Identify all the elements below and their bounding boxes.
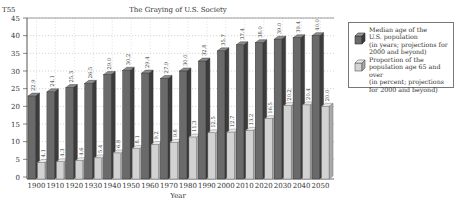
svg-text:2050: 2050	[312, 182, 330, 190]
svg-text:13.2: 13.2	[248, 114, 254, 126]
svg-text:37.4: 37.4	[239, 28, 245, 40]
svg-text:29.0: 29.0	[106, 58, 112, 70]
legend-line: Proportion of the	[369, 56, 453, 63]
svg-text:1980: 1980	[179, 182, 197, 190]
svg-text:20.4: 20.4	[305, 88, 311, 100]
svg-text:22.9: 22.9	[30, 80, 36, 92]
svg-text:20.2: 20.2	[286, 89, 292, 101]
legend-label-proportion-65: Proportion of the population age 65 and …	[369, 56, 453, 93]
svg-text:8.1: 8.1	[134, 135, 140, 143]
legend-line: U.S. population	[369, 33, 453, 40]
svg-text:30: 30	[11, 68, 20, 76]
svg-text:9.2: 9.2	[153, 131, 159, 139]
svg-text:1900: 1900	[28, 182, 46, 190]
svg-text:12.7: 12.7	[229, 116, 235, 128]
svg-text:1930: 1930	[84, 182, 102, 190]
legend-line: for 2000 and beyond)	[369, 86, 453, 93]
svg-text:32.8: 32.8	[201, 45, 207, 57]
svg-text:1990: 1990	[198, 182, 216, 190]
legend-line: (in years; projections for	[369, 41, 453, 48]
svg-text:2000: 2000	[217, 182, 235, 190]
svg-text:4.6: 4.6	[78, 147, 84, 155]
svg-text:20.0: 20.0	[324, 90, 330, 102]
svg-text:1940: 1940	[103, 182, 121, 190]
svg-text:T55: T55	[2, 6, 16, 14]
svg-text:4.1: 4.1	[40, 149, 46, 157]
svg-text:16.5: 16.5	[267, 102, 273, 114]
svg-text:20: 20	[11, 103, 20, 111]
svg-text:12.5: 12.5	[210, 116, 216, 128]
svg-text:2040: 2040	[293, 182, 311, 190]
svg-text:1910: 1910	[46, 182, 64, 190]
svg-text:25: 25	[11, 85, 20, 93]
legend-line: (in percent; projections	[369, 78, 453, 85]
svg-text:11.3: 11.3	[191, 121, 197, 133]
svg-text:10: 10	[11, 138, 20, 146]
dark-cube-icon	[354, 32, 367, 45]
legend: Median age of the U.S. population (in ye…	[348, 22, 454, 88]
legend-label-median-age: Median age of the U.S. population (in ye…	[369, 26, 453, 56]
svg-text:35.7: 35.7	[220, 34, 226, 46]
legend-line: population age 65 and over	[369, 63, 453, 78]
svg-text:The Graying of U.S. Society: The Graying of U.S. Society	[129, 6, 227, 14]
svg-text:1960: 1960	[141, 182, 159, 190]
svg-text:Year: Year	[169, 192, 186, 200]
svg-text:9.8: 9.8	[172, 129, 178, 137]
svg-text:30.2: 30.2	[125, 54, 131, 66]
svg-text:2030: 2030	[274, 182, 292, 190]
svg-text:5: 5	[16, 156, 20, 164]
svg-text:1920: 1920	[65, 182, 83, 190]
svg-text:30.0: 30.0	[182, 54, 188, 66]
svg-text:39.0: 39.0	[276, 23, 282, 35]
svg-text:40.0: 40.0	[314, 19, 320, 31]
svg-text:15: 15	[11, 121, 20, 129]
svg-text:5.4: 5.4	[97, 144, 103, 153]
svg-text:40: 40	[11, 32, 20, 40]
svg-text:2020: 2020	[255, 182, 273, 190]
light-cube-icon	[354, 59, 367, 72]
svg-text:1970: 1970	[160, 182, 178, 190]
svg-text:2010: 2010	[236, 182, 254, 190]
svg-text:0: 0	[16, 174, 20, 182]
bars	[28, 33, 333, 179]
svg-text:4.3: 4.3	[59, 149, 65, 157]
svg-text:25.3: 25.3	[68, 71, 74, 83]
svg-text:29.4: 29.4	[144, 56, 150, 68]
svg-text:27.9: 27.9	[163, 62, 169, 74]
svg-text:24.1: 24.1	[49, 75, 55, 87]
svg-text:1950: 1950	[122, 182, 140, 190]
svg-text:6.8: 6.8	[115, 140, 121, 148]
legend-line: 2000 and beyond)	[369, 48, 453, 55]
svg-text:39.4: 39.4	[295, 21, 301, 33]
svg-text:45: 45	[11, 15, 20, 23]
svg-text:35: 35	[11, 50, 20, 58]
svg-text:26.5: 26.5	[87, 67, 93, 79]
legend-line: Median age of the	[369, 26, 453, 33]
svg-text:38.0: 38.0	[257, 26, 263, 38]
